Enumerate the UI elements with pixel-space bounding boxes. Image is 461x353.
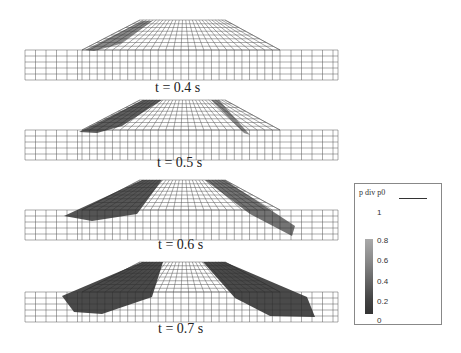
legend-tick: 0.6 [377,256,388,265]
legend-tick: 0.8 [377,236,388,245]
legend-tick: 0 [377,316,381,325]
panel-t04: t = 0.4 s [0,0,345,90]
legend-tick: 1 [377,208,381,217]
embankment-mesh-t04 [0,0,345,90]
colorbar [365,239,373,314]
panel-t07: t = 0.7 s [0,242,345,342]
legend-tick: 0.4 [377,277,388,286]
legend-title: p div p0 [359,188,385,197]
legend-title-line [399,198,427,199]
panel-t05: t = 0.5 s [0,80,345,170]
legend-tick: 0.2 [377,297,388,306]
time-label: t = 0.7 s [158,321,203,337]
panel-t06: t = 0.6 s [0,160,345,250]
colorbar-legend: p div p0 1 0.8 0.6 0.4 0.2 0 [354,183,442,325]
